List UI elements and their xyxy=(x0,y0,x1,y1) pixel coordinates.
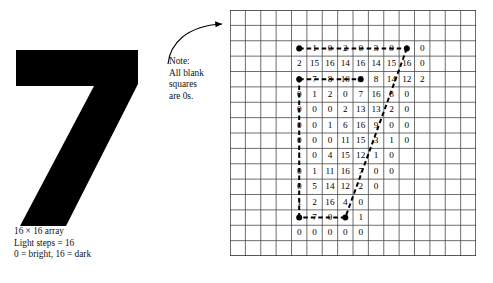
figure-root: 16 × 16 array Light steps = 16 0 = brigh… xyxy=(0,0,493,283)
grid-cell-value: 4 xyxy=(322,148,337,163)
grid-cell-value: 2 xyxy=(338,41,353,56)
note-line-2: All blank xyxy=(169,68,231,80)
grid-cell-value: 1 xyxy=(368,148,383,163)
note-line-3: squares xyxy=(169,79,231,91)
grid-cell-value: 1 xyxy=(307,41,322,56)
grid-cell-value: 0 xyxy=(338,87,353,102)
grid-cell-value: 7 xyxy=(307,210,322,225)
grid-cell-value: 14 xyxy=(368,56,383,71)
grid-cell-value: 3 xyxy=(368,41,383,56)
grid-cell-value: 10 xyxy=(338,72,353,87)
grid-cell-value: 7 xyxy=(353,164,368,179)
grid-cell-value: 0 xyxy=(292,179,307,194)
grid-cell-value: 5 xyxy=(307,179,322,194)
grid-cell-value: 2 xyxy=(415,72,430,87)
grid-cell-value: 9 xyxy=(368,118,383,133)
grid-cell-value: 15 xyxy=(384,56,399,71)
grid-cell-value: 16 xyxy=(353,118,368,133)
grid-cell-value: 14 xyxy=(338,56,353,71)
grid-cell-value: 8 xyxy=(322,72,337,87)
grid-cell-value: 0 xyxy=(384,118,399,133)
grid-cell-value: 0 xyxy=(292,164,307,179)
grid-cell-value: 0 xyxy=(353,41,368,56)
grid-cell-value: 15 xyxy=(338,148,353,163)
grid-cell-value: 8 xyxy=(368,72,383,87)
grid-cell-value: 0 xyxy=(399,133,414,148)
grid-cell-value: 7 xyxy=(307,72,322,87)
grid-cell-value: 0 xyxy=(415,56,430,71)
grid-cell-value: 2 xyxy=(292,56,307,71)
grid-cell-value: 14 xyxy=(322,179,337,194)
grid-cell-value: 0 xyxy=(368,179,383,194)
grid-cell-value: 0 xyxy=(415,41,430,56)
grid-cell-value: 1 xyxy=(292,210,307,225)
grid-cell-value: 1 xyxy=(384,133,399,148)
grid-cell-value: 0 xyxy=(399,102,414,117)
grid-cell-value: 0 xyxy=(322,133,337,148)
grid-cell-value: 0 xyxy=(322,210,337,225)
grid-cell-value: 0 xyxy=(292,102,307,117)
grid-cell-value: 4 xyxy=(338,195,353,210)
grid-cell-value: 13 xyxy=(368,102,383,117)
pixel-grid: 0102030102151614161415160178108814122012… xyxy=(230,10,476,256)
grid-cell-value: 0 xyxy=(368,164,383,179)
grid-cell-value: 15 xyxy=(353,133,368,148)
grid-cell-value: 1 xyxy=(307,87,322,102)
grid-cell-value: 2 xyxy=(353,179,368,194)
grid-cell-value: 0 xyxy=(322,225,337,240)
grid-cell-value: 0 xyxy=(322,41,337,56)
caption-line-3: 0 = bright, 16 = dark xyxy=(14,249,164,261)
grid-cell-value: 11 xyxy=(322,164,337,179)
grid-cell-value: 6 xyxy=(338,118,353,133)
grid-cell-value: 13 xyxy=(353,102,368,117)
grid-cell-value: 0 xyxy=(353,225,368,240)
grid-cell-value: 16 xyxy=(353,56,368,71)
grid-cell-value: 12 xyxy=(353,148,368,163)
array-caption: 16 × 16 array Light steps = 16 0 = brigh… xyxy=(14,226,164,261)
grid-cell-value: 15 xyxy=(307,56,322,71)
grid-values-layer: 0102030102151614161415160178108814122012… xyxy=(230,10,476,256)
grid-cell-value: 16 xyxy=(368,87,383,102)
grid-cell-value: 14 xyxy=(384,72,399,87)
grid-cell-value: 2 xyxy=(322,87,337,102)
grid-cell-value: 0 xyxy=(399,118,414,133)
grid-cell-value: 0 xyxy=(322,102,337,117)
note-block: Note: All blank squares are 0s. xyxy=(169,56,231,102)
grid-cell-value: 11 xyxy=(338,133,353,148)
grid-cell-value: 0 xyxy=(307,102,322,117)
grid-cell-value: 2 xyxy=(384,102,399,117)
grid-cell-value: 0 xyxy=(292,118,307,133)
grid-cell-value: 0 xyxy=(384,148,399,163)
grid-cell-value: 8 xyxy=(384,87,399,102)
caption-line-2: Light steps = 16 xyxy=(14,238,164,250)
grid-cell-value: 0 xyxy=(307,148,322,163)
grid-cell-value: 8 xyxy=(353,72,368,87)
note-line-1: Note: xyxy=(169,56,231,68)
grid-cell-value: 1 xyxy=(292,148,307,163)
grid-cell-value: 0 xyxy=(307,225,322,240)
grid-cell-value: 0 xyxy=(292,225,307,240)
grid-cell-value: 3 xyxy=(368,133,383,148)
grid-cell-value: 0 xyxy=(384,164,399,179)
grid-cell-value: 1 xyxy=(322,118,337,133)
grid-cell-value: 16 xyxy=(399,56,414,71)
grid-cell-value: 16 xyxy=(338,164,353,179)
note-line-4: are 0s. xyxy=(169,91,231,103)
grid-cell-value: 0 xyxy=(292,133,307,148)
grid-cell-value: 1 xyxy=(292,72,307,87)
digit-panel: 16 × 16 array Light steps = 16 0 = brigh… xyxy=(0,0,170,283)
caption-line-1: 16 × 16 array xyxy=(14,226,164,238)
grid-cell-value: 1 xyxy=(292,195,307,210)
grid-cell-value: 1 xyxy=(307,164,322,179)
grid-cell-value: 1 xyxy=(353,210,368,225)
grid-cell-value: 1 xyxy=(399,41,414,56)
grid-cell-value: 0 xyxy=(307,133,322,148)
grid-cell-value: 12 xyxy=(399,72,414,87)
grid-cell-value: 16 xyxy=(322,195,337,210)
grid-cell-value: 4 xyxy=(338,210,353,225)
grid-cell-value: 0 xyxy=(353,195,368,210)
grid-cell-value: 16 xyxy=(322,56,337,71)
grid-cell-value: 7 xyxy=(353,87,368,102)
grid-cell-value: 0 xyxy=(338,225,353,240)
grid-cell-value: 2 xyxy=(338,102,353,117)
